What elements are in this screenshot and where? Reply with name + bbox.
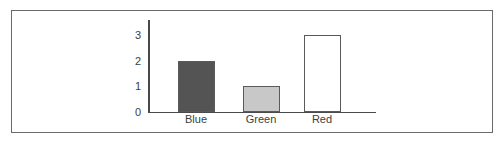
y-tick-label-3: 3 <box>135 30 141 41</box>
bar-blue <box>178 61 215 112</box>
x-tick-label-red: Red <box>312 114 332 125</box>
y-tick-label-2: 2 <box>135 55 141 66</box>
y-tick-label-1: 1 <box>135 81 141 92</box>
y-axis-line <box>148 20 150 113</box>
y-tick-label-0: 0 <box>135 106 141 117</box>
plot-area: 0 1 2 3 Blue Green Red <box>148 20 376 113</box>
bar-green <box>243 86 280 111</box>
bar-red <box>304 35 341 111</box>
x-tick-label-green: Green <box>246 114 277 125</box>
bar-chart-figure: 0 1 2 3 Blue Green Red <box>0 0 503 144</box>
x-tick-label-blue: Blue <box>185 114 207 125</box>
